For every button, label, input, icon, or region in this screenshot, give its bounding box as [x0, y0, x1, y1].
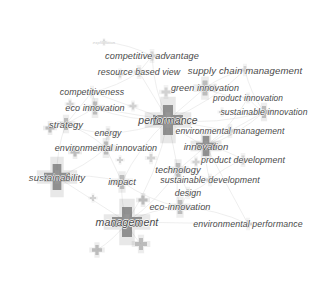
network-node[interactable]: [206, 176, 214, 184]
network-node[interactable]: [89, 102, 102, 115]
network-node[interactable]: [173, 200, 187, 214]
network-node-unlabeled[interactable]: [71, 148, 80, 157]
network-node[interactable]: [100, 142, 113, 155]
network-node-unlabeled[interactable]: [67, 101, 74, 108]
network-node[interactable]: [102, 40, 107, 45]
network-node[interactable]: [135, 68, 144, 77]
network-visualization: exploitationcompetitive advantageresourc…: [0, 0, 328, 288]
network-node-unlabeled[interactable]: [130, 103, 137, 110]
network-node[interactable]: [258, 106, 270, 118]
network-node-unlabeled[interactable]: [193, 159, 200, 166]
network-node-unlabeled[interactable]: [135, 238, 147, 250]
network-node[interactable]: [244, 220, 252, 228]
network-node[interactable]: [148, 52, 157, 61]
network-node[interactable]: [226, 127, 235, 136]
network-node[interactable]: [88, 88, 96, 96]
network-node-unlabeled[interactable]: [139, 196, 148, 205]
network-node[interactable]: [115, 175, 129, 189]
network-node-unlabeled[interactable]: [90, 195, 96, 201]
network-node[interactable]: [60, 118, 72, 130]
network-node[interactable]: [239, 156, 248, 165]
network-node[interactable]: [184, 189, 192, 197]
node-layer: [0, 0, 328, 288]
network-node-unlabeled[interactable]: [117, 71, 124, 78]
network-node[interactable]: [198, 81, 213, 96]
network-node[interactable]: [241, 66, 249, 74]
network-node-unlabeled[interactable]: [219, 109, 225, 115]
network-node-unlabeled[interactable]: [162, 88, 171, 97]
network-node[interactable]: [171, 163, 185, 177]
network-node-unlabeled[interactable]: [117, 157, 123, 163]
network-node[interactable]: [245, 95, 252, 102]
network-node-unlabeled[interactable]: [46, 124, 55, 133]
network-node[interactable]: [104, 129, 113, 138]
network-node-unlabeled[interactable]: [147, 154, 155, 162]
network-node-unlabeled[interactable]: [92, 245, 102, 255]
